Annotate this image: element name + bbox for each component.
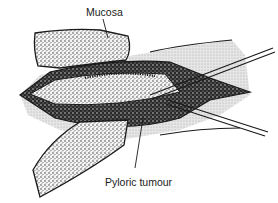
label-mucosa: Mucosa: [86, 7, 123, 18]
label-pyloric-tumour: Pyloric tumour: [105, 177, 172, 188]
surgical-illustration: Mucosa Pyloric tumour: [0, 0, 278, 203]
